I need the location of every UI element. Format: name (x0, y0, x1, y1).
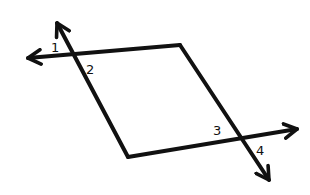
angle-label-2: 2 (86, 62, 94, 77)
left-transversal-line (57, 23, 128, 157)
angle-label-4: 4 (256, 143, 264, 158)
angle-label-1: 1 (51, 40, 59, 55)
angle-label-3: 3 (213, 123, 221, 138)
right-transversal-line (180, 45, 269, 180)
parallelogram-angle-diagram: 1 2 3 4 (0, 0, 310, 195)
